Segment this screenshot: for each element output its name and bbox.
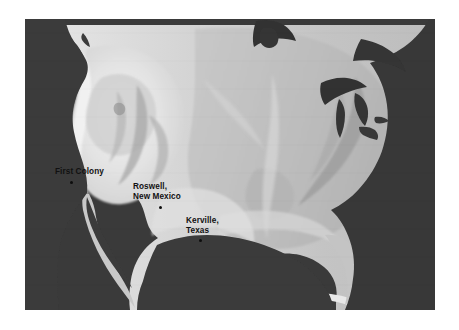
marker-label-kerville-line2: Texas: [186, 226, 209, 236]
marker-label-kerville-line1: Kerville,: [186, 216, 219, 226]
marker-label-first-colony: First Colony: [55, 167, 104, 177]
map-terrain-canvas: [25, 19, 435, 310]
marker-label-roswell-line2: New Mexico: [133, 192, 181, 202]
marker-label-roswell-line1: Roswell,: [133, 182, 167, 192]
relief-map-figure: First Colony Roswell, New Mexico Kervill…: [25, 19, 435, 310]
